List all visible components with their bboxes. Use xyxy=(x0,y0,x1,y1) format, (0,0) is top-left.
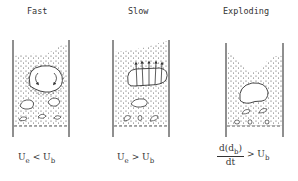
condition-slow: Ue > Ub xyxy=(117,152,154,165)
growth-rate-fraction: d(db) dt xyxy=(217,143,244,167)
panel-exploding xyxy=(226,43,283,137)
condition-exploding: d(db) dt > Ub xyxy=(217,143,269,167)
condition-fast: Ue < Ub xyxy=(18,152,55,165)
bubble-fast xyxy=(29,66,62,92)
panel-fast xyxy=(13,40,69,137)
panel-slow xyxy=(113,40,169,137)
